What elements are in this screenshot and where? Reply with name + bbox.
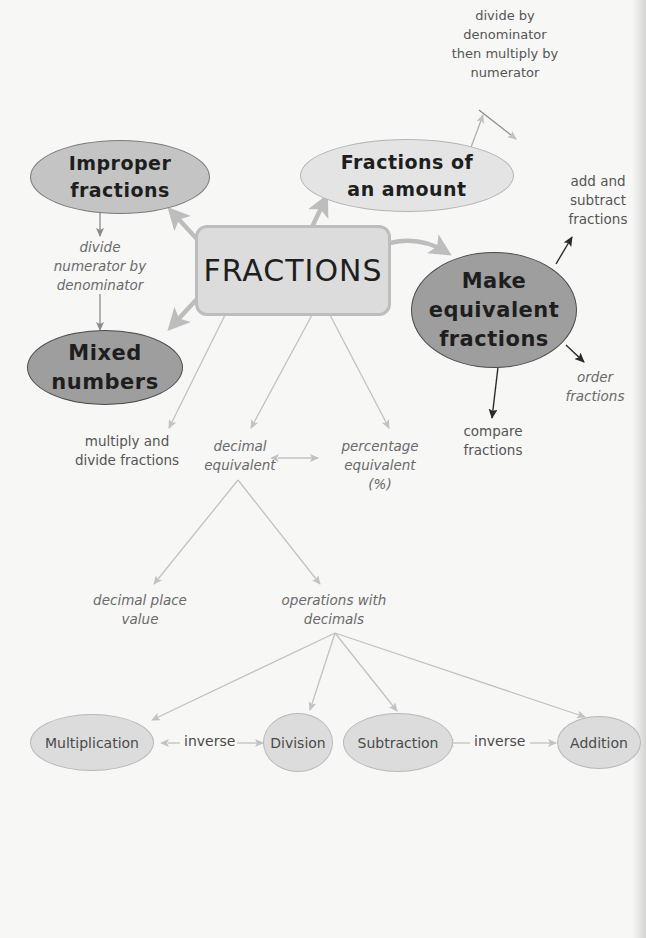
node-fractions-of-amount: Fractions of an amount [300,139,514,212]
node-label-line: numbers [51,368,158,397]
node-label-line: Mixed [68,339,141,368]
node-improper-fractions: Improper fractions [30,140,210,214]
node-subtraction: Subtraction [343,713,453,772]
label-inverse-sub-add: inverse [472,733,527,749]
central-node-fractions: FRACTIONS [195,225,391,316]
node-label-line: fractions [439,325,549,354]
label-operations-decimals: operations with decimals [264,591,404,629]
node-addition: Addition [557,716,641,769]
node-make-equivalent-fractions: Make equivalent fractions [411,252,577,368]
label-amount-method: divide by denominator then multiply by n… [440,6,570,82]
central-label: FRACTIONS [203,253,382,288]
label-multiply-divide: multiply and divide fractions [62,432,192,470]
node-label-line: fractions [70,177,170,204]
label-divide-numerator: divide numerator by denominator [40,238,160,295]
node-multiplication: Multiplication [30,714,154,771]
node-label: Division [270,735,325,751]
label-order-fractions: order fractions [545,368,645,406]
label-add-subtract: add and subtract fractions [550,172,646,229]
node-label-line: an amount [347,176,466,203]
node-label-line: Improper [69,150,172,177]
node-label: Addition [570,735,628,751]
label-percentage-equivalent: percentage equivalent (%) [330,437,430,494]
node-label: Subtraction [358,735,439,751]
node-label-line: equivalent [429,296,560,325]
label-decimal-place-value: decimal place value [80,591,200,629]
node-mixed-numbers: Mixed numbers [27,330,183,405]
node-label-line: Fractions of [341,149,474,176]
label-compare-fractions: compare fractions [443,422,543,460]
label-decimal-equivalent: decimal equivalent [200,437,280,475]
label-inverse-mult-div: inverse [182,733,237,749]
node-label-line: Make [462,267,527,296]
node-division: Division [263,713,333,772]
node-label: Multiplication [45,735,139,751]
